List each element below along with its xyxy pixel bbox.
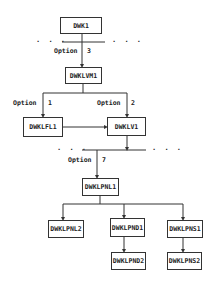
node-dwklpnd1: DWKLPND1 (110, 218, 145, 237)
node-dwklpnl1: DWKLPNL1 (82, 178, 119, 196)
node-dwklpns1: DWKLPNS1 (167, 220, 203, 238)
ellipsis-right-2: . . . (152, 144, 183, 152)
option-7-number: 7 (102, 156, 106, 164)
option-1-number: 1 (48, 99, 52, 107)
node-dwklfl1: DWKLFL1 (23, 117, 63, 137)
panel-flow-diagram: . . . . . . . . . . . . Option 3 Option … (0, 0, 215, 296)
option-2-number: 2 (131, 99, 135, 107)
node-dwklpnd2: DWKLPND2 (111, 252, 146, 270)
node-dwklpnl2: DWKLPNL2 (48, 220, 84, 238)
ellipsis-left-1: . . . (36, 36, 67, 44)
node-dwklvm1: DWKLVM1 (65, 67, 102, 84)
option-3-label: Option (54, 47, 77, 55)
node-dwklv1: DWKLV1 (107, 117, 146, 136)
node-dwklpns2: DWKLPNS2 (167, 252, 202, 270)
ellipsis-left-2: . . . (57, 144, 88, 152)
node-dwk1: DWK1 (60, 17, 102, 34)
option-1-label: Option (13, 99, 36, 107)
option-2-label: Option (97, 99, 120, 107)
ellipsis-right-1: . . . (112, 36, 143, 44)
option-7-label: Option (68, 156, 91, 164)
option-3-number: 3 (87, 47, 91, 55)
